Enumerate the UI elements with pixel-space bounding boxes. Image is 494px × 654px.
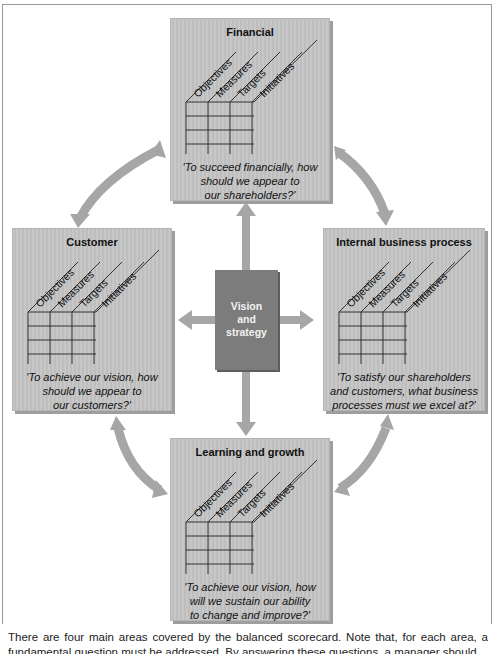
learning-question: 'To achieve our vision, how will we sust… (170, 580, 330, 622)
arrow-center-to-internal (278, 310, 314, 330)
center-line: strategy (215, 326, 278, 339)
internal-business-process-box: Internal business process Objectives Mea… (323, 228, 485, 411)
internal-question: 'To satisfy our shareholders and custome… (323, 370, 485, 412)
question-line: should we appear to (12, 384, 172, 398)
question-line: our customers?' (12, 398, 172, 412)
question-line: will we sustain our ability (170, 594, 330, 608)
question-line: and customers, what business (323, 384, 485, 398)
customer-scorecard-grid: Objectives Measures Targets Initiatives (24, 246, 164, 364)
question-line: processes must we excel at?' (323, 398, 485, 412)
arrow-customer-learning (118, 428, 160, 490)
customer-question: 'To achieve our vision, how should we ap… (12, 370, 172, 412)
question-line: 'To succeed financially, how (170, 160, 330, 174)
question-line: 'To satisfy our shareholders (323, 370, 485, 384)
customer-box: Customer Objectives Measures Targets Ini… (12, 228, 172, 411)
question-line: should we appear to (170, 174, 330, 188)
arrowhead-icon (70, 214, 90, 228)
arrow-financial-customer (80, 150, 158, 218)
financial-question: 'To succeed financially, how should we a… (170, 160, 330, 202)
question-line: to change and improve?' (170, 608, 330, 622)
center-line: and (215, 313, 278, 326)
vision-strategy-box: Vision and strategy (215, 270, 278, 370)
learning-scorecard-grid: Objectives Measures Targets Initiatives (182, 456, 322, 574)
arrow-center-to-financial (236, 202, 256, 270)
vision-strategy-label: Vision and strategy (215, 300, 278, 339)
arrow-center-to-learning (236, 370, 256, 436)
internal-scorecard-grid: Objectives Measures Targets Initiatives (335, 246, 475, 364)
question-line: 'To achieve our vision, how (170, 580, 330, 594)
arrowhead-icon (376, 210, 394, 226)
caption-line-2: fundamental question must be addressed. … (8, 646, 488, 654)
financial-box: Financial Objectives Measures Targets In… (170, 18, 330, 201)
learning-growth-box: Learning and growth Objectives Measures … (170, 438, 330, 621)
center-line: Vision (215, 300, 278, 313)
arrow-financial-internal (338, 152, 385, 214)
arrow-center-to-customer (178, 310, 215, 330)
arrow-internal-learning (340, 428, 386, 488)
question-line: our shareholders?' (170, 188, 330, 202)
question-line: 'To achieve our vision, how (12, 370, 172, 384)
financial-scorecard-grid: Objectives Measures Targets Initiatives (182, 36, 322, 154)
caption-line-1: There are four main areas covered by the… (8, 631, 488, 643)
arrowhead-icon (110, 416, 126, 430)
